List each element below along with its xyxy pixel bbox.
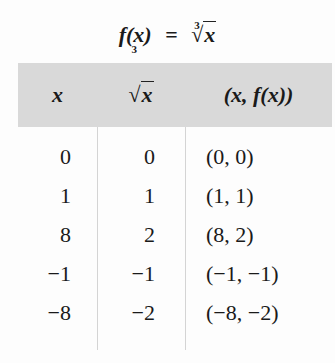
cell-cbrt: −2 [132,300,155,326]
cell-x: 1 [60,183,71,209]
table-row: 1 1 (1, 1) [0,183,335,213]
cell-x: −8 [48,300,71,326]
cell-pair: (8, 2) [206,222,254,248]
radicand: x [141,81,154,107]
table-row: −1 −1 (−1, −1) [0,261,335,291]
root-index: 3 [131,43,137,55]
table-row: 8 2 (8, 2) [0,222,335,252]
cell-x: 0 [60,144,71,170]
cell-cbrt: −1 [132,261,155,287]
equals-sign: = [165,22,178,47]
cell-cbrt: 0 [144,144,155,170]
cell-x: −1 [48,261,71,287]
header-x: x [18,63,97,127]
table-row: 0 0 (0, 0) [0,144,335,174]
cube-root-expression: 3 √x [128,63,153,127]
radicand: x [203,21,216,47]
table-header: x 3 √x (x, f(x)) [18,63,332,127]
cell-cbrt: 2 [144,222,155,248]
cube-root-expression: 3 √x [191,22,216,48]
header-cube-root: 3 √x [97,63,185,127]
radical-icon: √ [128,82,140,107]
cell-pair: (−1, −1) [206,261,278,287]
cell-pair: (−8, −2) [206,300,278,326]
cell-x: 8 [60,222,71,248]
cell-pair: (1, 1) [206,183,254,209]
table-row: −8 −2 (−8, −2) [0,300,335,330]
root-index: 3 [194,19,200,31]
header-pair: (x, f(x)) [185,63,332,127]
cell-pair: (0, 0) [206,144,254,170]
cell-cbrt: 1 [144,183,155,209]
table-title: f(x) = 3 √x [0,22,335,48]
